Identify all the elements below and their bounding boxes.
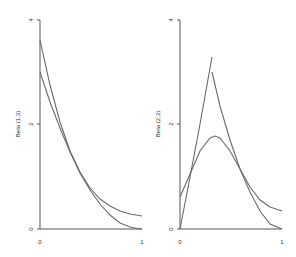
x-tick-label-0: 0 (38, 239, 42, 245)
series-approximation (40, 40, 142, 216)
x-tick-label-1: 1 (140, 239, 144, 245)
y-axis-label: Beta (1,3) (15, 111, 21, 137)
panel-beta-2-3: 4 2 0 0 1 Beta (2,3) (155, 18, 284, 245)
y-tick-label-2: 2 (28, 122, 34, 126)
chart-figure: 4 2 0 0 1 Beta (1,3) 4 2 0 0 1 Beta (2,3… (0, 0, 296, 257)
series-piecewise-rising (180, 57, 212, 229)
y-tick-label-4: 4 (28, 18, 34, 22)
x-tick-label-1: 1 (280, 239, 284, 245)
x-tick-label-0: 0 (178, 239, 182, 245)
series-beta-1-3-density (40, 72, 142, 229)
panel-beta-1-3: 4 2 0 0 1 Beta (1,3) (15, 18, 144, 245)
y-tick-label-2: 2 (168, 122, 174, 126)
y-tick-label-0: 0 (28, 227, 34, 231)
y-axis-label: Beta (2,3) (155, 111, 161, 137)
y-tick-label-0: 0 (168, 227, 174, 231)
series-piecewise-falling (212, 72, 282, 229)
y-tick-label-4: 4 (168, 18, 174, 22)
